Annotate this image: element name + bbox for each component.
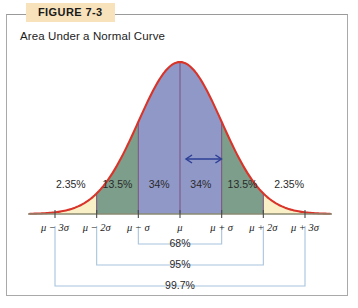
figure-number-label: FIGURE 7-3 — [38, 7, 103, 18]
normal-curve-plot: 2.35% 13.5% 34% 34% 13.5% 2.35% μ − 3σ μ… — [6, 48, 352, 296]
span-brackets — [55, 226, 305, 286]
region-label: 34% — [190, 178, 211, 190]
bracket-label: 95% — [169, 258, 190, 270]
figure-root: FIGURE 7-3 Area Under a Normal Curve — [0, 0, 358, 308]
span-bracket — [55, 226, 305, 286]
region-label: 34% — [149, 178, 170, 190]
region-label: 13.5% — [228, 178, 258, 190]
region-label: 2.35% — [274, 178, 304, 190]
x-tick-label: μ — [177, 222, 182, 233]
region-label: 13.5% — [103, 178, 133, 190]
x-tick-label: μ + 3σ — [291, 222, 319, 233]
region-label: 2.35% — [56, 178, 86, 190]
region-fill — [30, 48, 55, 214]
x-tick-label: μ − 2σ — [83, 222, 111, 233]
bracket-label: 99.7% — [165, 279, 195, 291]
figure-number-tag: FIGURE 7-3 — [26, 3, 115, 22]
figure-caption: Area Under a Normal Curve — [20, 30, 165, 42]
x-tick-label: μ − σ — [127, 222, 150, 233]
x-tick-label: μ + σ — [210, 222, 233, 233]
x-tick-label: μ − 3σ — [41, 222, 69, 233]
bracket-label: 68% — [169, 237, 190, 249]
x-tick-label: μ + 2σ — [249, 222, 277, 233]
region-fill — [305, 48, 330, 214]
